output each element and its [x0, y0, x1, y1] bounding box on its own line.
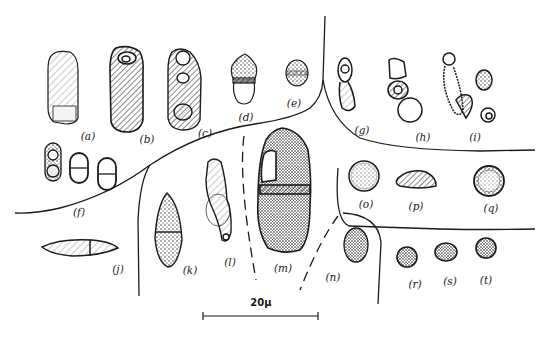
label-f: (f) — [73, 206, 85, 218]
label-n: (n) — [326, 271, 341, 283]
scale-bar-label: 20μ — [250, 297, 271, 308]
label-m: (m) — [274, 262, 292, 274]
specimen-e — [286, 60, 308, 86]
label-l: (l) — [224, 256, 236, 268]
specimen-b — [110, 47, 143, 132]
specimen-m — [258, 128, 311, 252]
specimen-a — [48, 51, 78, 124]
label-a: (a) — [81, 130, 95, 142]
label-t: (t) — [480, 274, 492, 286]
specimen-h — [388, 58, 422, 122]
label-g: (g) — [355, 124, 370, 136]
label-o: (o) — [359, 198, 374, 210]
specimen-s — [435, 243, 457, 261]
spore-plate — [0, 0, 552, 338]
specimen-g — [338, 58, 355, 111]
specimen-c — [168, 49, 201, 130]
specimen-r — [397, 247, 417, 267]
label-j: (j) — [112, 263, 123, 275]
divider-left-to-bottom — [138, 165, 150, 296]
label-p: (p) — [409, 200, 424, 212]
specimen-k — [155, 193, 182, 267]
label-b: (b) — [140, 133, 155, 145]
label-c: (c) — [198, 127, 212, 139]
scale-bar — [203, 312, 318, 320]
label-e: (e) — [287, 97, 301, 109]
specimen-n — [344, 228, 368, 262]
specimen-l — [206, 159, 231, 241]
label-h: (h) — [416, 131, 431, 143]
label-d: (d) — [239, 111, 254, 123]
label-k: (k) — [183, 264, 198, 276]
label-s: (s) — [443, 275, 457, 287]
specimen-f — [45, 143, 116, 190]
specimen-d — [231, 54, 256, 104]
specimen-t — [476, 238, 496, 258]
label-r: (r) — [408, 278, 421, 290]
specimen-j — [42, 240, 118, 256]
label-i: (i) — [469, 131, 481, 143]
divider-dashed-left — [243, 136, 257, 280]
specimen-i — [443, 53, 495, 122]
label-q: (q) — [484, 202, 499, 214]
specimen-p — [396, 171, 436, 188]
specimen-q — [474, 166, 504, 196]
specimen-o — [349, 161, 379, 191]
